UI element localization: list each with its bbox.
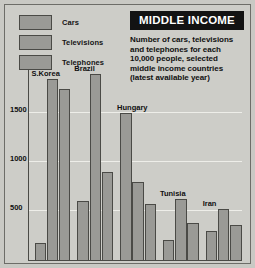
bar <box>230 225 242 260</box>
legend-item: Telephones <box>19 54 124 71</box>
bar <box>145 204 157 260</box>
description-line: middle income countries <box>130 64 244 74</box>
y-axis-tick-label: 500 <box>10 203 23 212</box>
bar <box>35 243 47 260</box>
description-line: 10,000 people, selected <box>130 54 244 64</box>
category-label: Hungary <box>117 103 147 112</box>
bar <box>77 201 89 260</box>
bar <box>218 209 230 260</box>
y-axis-tick-label: 1500 <box>10 105 27 114</box>
description-line: Number of cars, televisions <box>130 35 244 45</box>
category-label: Tunisia <box>160 189 186 198</box>
bar <box>206 231 218 260</box>
bar <box>47 79 59 260</box>
bar <box>163 240 175 260</box>
legend-item-label: Telephones <box>62 58 104 67</box>
title-block: MIDDLE INCOME Number of cars, television… <box>130 11 244 83</box>
legend-swatch-icon <box>19 15 52 30</box>
description-line: (latest available year) <box>130 73 244 83</box>
title-banner: MIDDLE INCOME <box>130 11 244 30</box>
chart-description: Number of cars, televisionsand telephone… <box>130 35 244 83</box>
y-axis-tick-label: 1000 <box>10 154 27 163</box>
legend-item-label: Televisions <box>62 38 103 47</box>
title-text: MIDDLE INCOME <box>134 14 240 26</box>
legend-item-label: Cars <box>62 18 79 27</box>
bar <box>120 113 132 260</box>
description-line: and telephones for each <box>130 45 244 55</box>
chart-root: 50010001500S.KoreaBrazilHungaryTunisiaIr… <box>0 0 255 268</box>
bar <box>90 74 102 260</box>
legend: CarsTelevisionsTelephones <box>19 14 124 74</box>
bar <box>175 199 187 260</box>
legend-swatch-icon <box>19 55 52 70</box>
legend-item: Cars <box>19 14 124 31</box>
legend-swatch-icon <box>19 35 52 50</box>
category-label: Iran <box>203 199 217 208</box>
bar <box>187 223 199 260</box>
bar <box>59 89 71 261</box>
bar <box>102 172 114 260</box>
legend-item: Televisions <box>19 34 124 51</box>
plot-area <box>28 65 242 261</box>
bar <box>132 182 144 260</box>
